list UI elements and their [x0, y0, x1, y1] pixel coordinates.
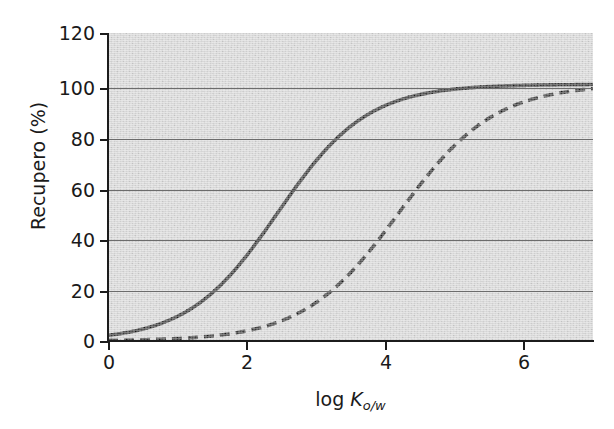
y-tick-120	[100, 33, 108, 35]
y-tick-label-60: 60	[49, 181, 95, 200]
gridline-40	[108, 240, 593, 241]
x-tick-label-6: 6	[504, 353, 544, 372]
x-tick-2	[246, 342, 248, 350]
x-tick-6	[523, 342, 525, 350]
y-tick-label-80: 80	[49, 130, 95, 149]
y-tick-0	[100, 341, 108, 343]
gridline-80	[108, 139, 593, 140]
plot-area	[108, 33, 593, 341]
y-axis-title: Recupero (%)	[27, 66, 49, 266]
x-tick-4	[385, 342, 387, 350]
y-tick-60	[100, 190, 108, 192]
y-tick-label-100: 100	[49, 79, 95, 98]
curves-layer	[108, 33, 593, 341]
y-tick-40	[100, 240, 108, 242]
x-axis-title-symbol: K	[350, 388, 362, 410]
gridline-20	[108, 291, 593, 292]
gridline-100	[108, 88, 593, 89]
y-tick-label-20: 20	[49, 282, 95, 301]
solid-curve	[108, 85, 593, 336]
y-tick-80	[100, 139, 108, 141]
y-axis-line	[107, 33, 109, 342]
y-tick-20	[100, 291, 108, 293]
gridline-60	[108, 190, 593, 191]
y-tick-label-0: 0	[49, 332, 95, 351]
x-axis-line	[107, 340, 594, 342]
x-axis-title-subscript: o/w	[363, 398, 386, 413]
x-axis-title-prefix: log	[315, 388, 350, 410]
chart-figure: 120 100 80 60 40 20 0 0 2 4 6 Recupero (…	[0, 0, 614, 429]
x-tick-label-2: 2	[227, 353, 267, 372]
x-tick-label-0: 0	[89, 353, 129, 372]
x-tick-0	[108, 342, 110, 350]
x-axis-title: log Ko/w	[108, 388, 593, 410]
y-tick-label-40: 40	[49, 231, 95, 250]
y-tick-100	[100, 88, 108, 90]
y-tick-label-120: 120	[49, 24, 95, 43]
x-tick-label-4: 4	[366, 353, 406, 372]
